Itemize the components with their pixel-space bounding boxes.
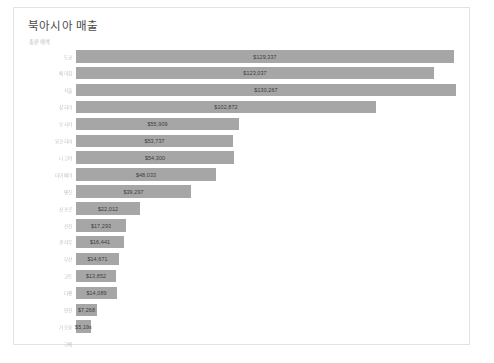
bar-row[interactable]: 서울$130,267 [28, 83, 468, 98]
bar-row[interactable]: 선전$17,293 [28, 218, 468, 233]
bar-row[interactable]: 다롄$14,089 [28, 286, 468, 301]
category-label: 인천 [28, 303, 72, 318]
bar-track: $129,337 [76, 49, 468, 64]
bar-value-label: $129,337 [253, 49, 276, 64]
bar-track: $54,300 [76, 150, 468, 165]
bar-row[interactable]: 베이징$123,037 [28, 66, 468, 81]
bar-track: $14,089 [76, 286, 468, 301]
bar-row[interactable]: 나고야$54,300 [28, 150, 468, 165]
bar-track: $16,441 [76, 235, 468, 250]
bar-value-label: $7,268 [78, 303, 95, 318]
bar-chart-plot: 도쿄$129,337베이징$123,037서울$130,267상하이$102,8… [28, 47, 468, 342]
bar-track: $14,671 [76, 252, 468, 267]
category-label: 부산 [28, 252, 72, 267]
screenshot-root: 북아시아 매출 총판매액 도쿄$129,337베이징$123,037서울$130… [0, 0, 494, 363]
category-label: 선전 [28, 218, 72, 233]
category-label: 나고야 [28, 150, 72, 165]
bar-value-label: $39,297 [123, 184, 143, 199]
bar-row[interactable]: 타이베이$48,033 [28, 167, 468, 182]
bar-track: $39,297 [76, 184, 468, 199]
bar-row[interactable]: 인천$7,268 [28, 303, 468, 318]
category-label: 톈진 [28, 184, 72, 199]
category-label: 상하이 [28, 100, 72, 115]
bar-row[interactable]: 가오슝$5,19x [28, 319, 468, 334]
bar-track: $130,267 [76, 83, 468, 98]
bar-value-label: $48,033 [136, 167, 156, 182]
bar-row[interactable]: 오사카$55,909 [28, 117, 468, 132]
category-label: 삿포로 [28, 201, 72, 216]
bar-track: $7,268 [76, 303, 468, 318]
bar-row[interactable]: 상하이$102,872 [28, 100, 468, 115]
bar-row[interactable]: 고베 [28, 336, 468, 351]
bar-value-label: $22,012 [98, 201, 118, 216]
bar-track: $48,033 [76, 167, 468, 182]
bar-value-label: $102,872 [214, 100, 237, 115]
page-title: 북아시아 매출 [28, 17, 99, 33]
bar-value-label: $14,671 [87, 252, 107, 267]
bar-value-label: $14,089 [86, 286, 106, 301]
bar-value-label: $123,037 [243, 66, 266, 81]
bar-value-label: $5,19x [75, 319, 92, 334]
bar-row[interactable]: 교토$13,852 [28, 269, 468, 284]
bar-value-label: $130,267 [254, 83, 277, 98]
axis-header-label: 총판매액 [29, 38, 50, 45]
category-label: 요코하마 [28, 134, 72, 149]
bar-row[interactable]: 광저우$16,441 [28, 235, 468, 250]
bar-track: $22,012 [76, 201, 468, 216]
category-label: 가오슝 [28, 319, 72, 334]
category-label: 서울 [28, 83, 72, 98]
category-label: 도쿄 [28, 49, 72, 64]
bar-track: $5,19x [76, 319, 468, 334]
bar-value-label: $54,300 [145, 150, 165, 165]
bar-row[interactable]: 요코하마$53,737 [28, 134, 468, 149]
bar-value-label: $53,737 [144, 134, 164, 149]
bar-value-label: $13,852 [86, 269, 106, 284]
category-label: 광저우 [28, 235, 72, 250]
chart-card: 북아시아 매출 총판매액 도쿄$129,337베이징$123,037서울$130… [13, 7, 470, 345]
bar-track: $102,872 [76, 100, 468, 115]
category-label: 오사카 [28, 117, 72, 132]
category-label: 교토 [28, 269, 72, 284]
bar-value-label: $16,441 [90, 235, 110, 250]
bar-track: $123,037 [76, 66, 468, 81]
bar-track: $55,909 [76, 117, 468, 132]
bar-track [76, 336, 468, 351]
bar-value-label: $17,293 [91, 218, 111, 233]
bar-track: $53,737 [76, 134, 468, 149]
bar-row[interactable]: 부산$14,671 [28, 252, 468, 267]
bar-row[interactable]: 톈진$39,297 [28, 184, 468, 199]
category-label: 고베 [28, 336, 72, 351]
bar-value-label: $55,909 [147, 117, 167, 132]
category-label: 베이징 [28, 66, 72, 81]
bar-track: $17,293 [76, 218, 468, 233]
bar-track: $13,852 [76, 269, 468, 284]
category-label: 다롄 [28, 286, 72, 301]
bar-row[interactable]: 도쿄$129,337 [28, 49, 468, 64]
category-label: 타이베이 [28, 167, 72, 182]
bar-row[interactable]: 삿포로$22,012 [28, 201, 468, 216]
